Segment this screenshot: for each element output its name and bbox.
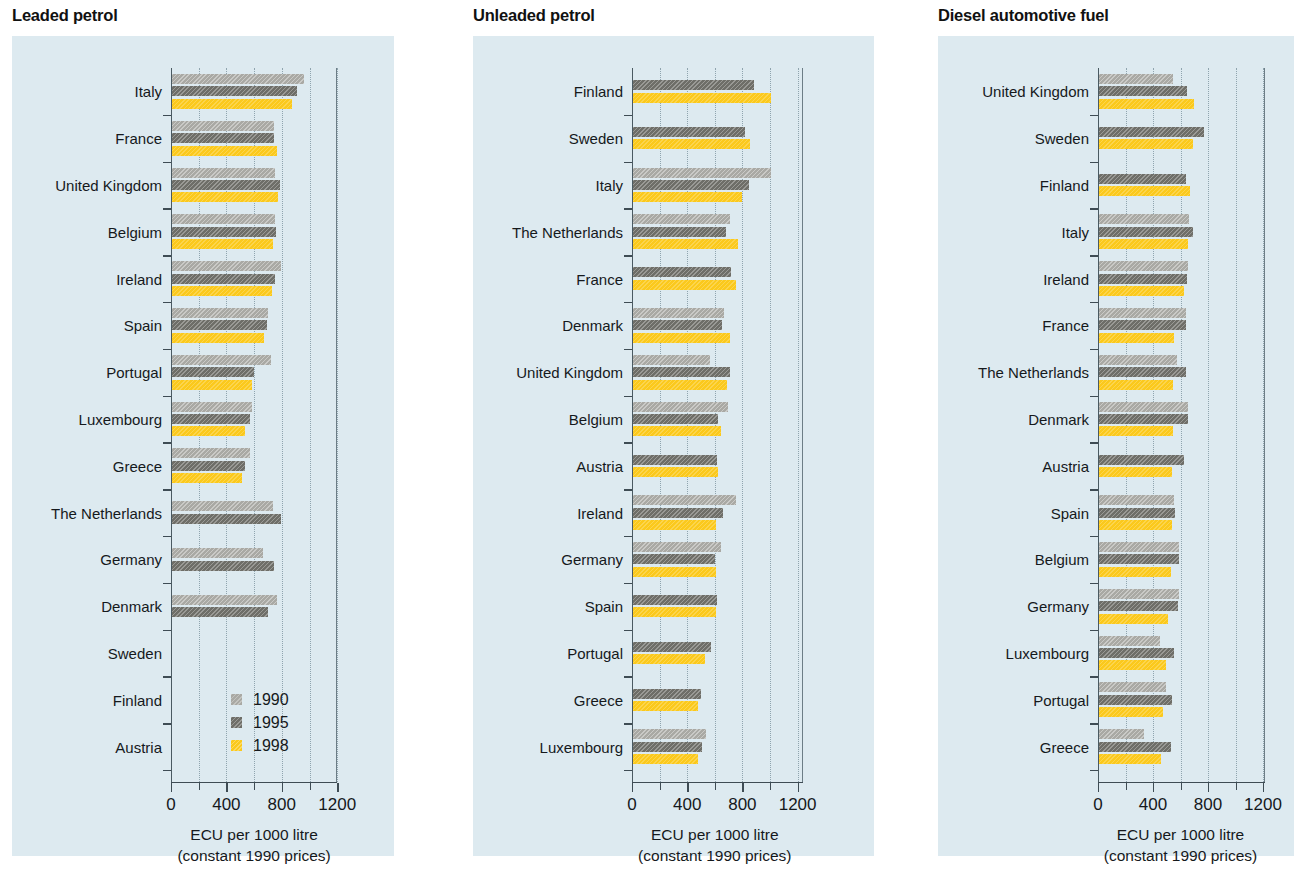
bar xyxy=(1099,467,1172,477)
bar xyxy=(172,473,242,483)
category-label: Denmark xyxy=(473,318,623,333)
category-axis-tick xyxy=(624,630,632,631)
bar xyxy=(633,333,730,343)
bar xyxy=(633,192,742,202)
bar xyxy=(633,320,722,330)
x-axis-tick xyxy=(282,783,283,792)
x-axis-tick xyxy=(632,783,633,792)
category-label: Germany xyxy=(12,552,162,567)
category-axis-tick xyxy=(624,676,632,677)
gridline xyxy=(1208,68,1210,782)
category-axis-tick xyxy=(163,770,171,771)
category-axis-tick xyxy=(1090,115,1098,116)
bar xyxy=(1099,695,1172,705)
bar xyxy=(633,380,727,390)
category-label: The Netherlands xyxy=(938,365,1089,380)
bar xyxy=(172,227,276,237)
category-axis-tick xyxy=(624,115,632,116)
bar xyxy=(172,180,280,190)
legend-label: 1998 xyxy=(253,738,289,754)
category-axis-tick xyxy=(624,302,632,303)
x-axis-tick xyxy=(1181,783,1182,790)
bar xyxy=(172,286,272,296)
bar xyxy=(633,239,738,249)
x-axis-tick xyxy=(254,783,255,790)
bar xyxy=(172,367,254,377)
bar xyxy=(172,448,250,458)
category-axis-tick xyxy=(163,162,171,163)
x-axis-tick xyxy=(687,783,688,792)
bar xyxy=(1099,174,1186,184)
bar xyxy=(172,86,297,96)
category-label: Denmark xyxy=(938,412,1089,427)
category-label: Austria xyxy=(938,459,1089,474)
category-axis-tick xyxy=(163,396,171,397)
x-axis-tick xyxy=(1153,783,1154,792)
bar xyxy=(1099,542,1179,552)
category-label: Sweden xyxy=(473,131,623,146)
x-axis-tick-label: 0 xyxy=(1068,795,1128,815)
x-axis-tick xyxy=(770,783,771,790)
bar xyxy=(633,280,736,290)
bar xyxy=(633,426,721,436)
category-label: Luxembourg xyxy=(12,412,162,427)
x-axis-tick xyxy=(1263,783,1264,792)
category-label: Finland xyxy=(938,178,1089,193)
category-label: Finland xyxy=(473,84,623,99)
bar xyxy=(1099,754,1161,764)
category-axis-tick xyxy=(1090,162,1098,163)
category-axis-tick xyxy=(163,583,171,584)
bar xyxy=(172,595,277,605)
bar xyxy=(172,380,252,390)
axis-caption-line1: ECU per 1000 litre xyxy=(104,825,404,846)
category-label: Greece xyxy=(473,693,623,708)
x-axis-tick xyxy=(1126,783,1127,790)
category-axis-tick xyxy=(1090,770,1098,771)
x-axis-tick xyxy=(337,783,338,792)
plot-area-3: 04008001200ECU per 1000 litre(constant 1… xyxy=(938,36,1294,856)
category-axis-tick xyxy=(624,723,632,724)
bar xyxy=(1099,308,1186,318)
x-axis-tick xyxy=(798,783,799,792)
bar xyxy=(633,467,718,477)
bar xyxy=(1099,682,1166,692)
bar xyxy=(1099,614,1168,624)
bar xyxy=(633,402,728,412)
x-axis-tick xyxy=(715,783,716,790)
category-label: Belgium xyxy=(473,412,623,427)
category-axis-tick xyxy=(1090,536,1098,537)
bar xyxy=(1099,333,1174,343)
category-label: The Netherlands xyxy=(473,225,623,240)
bar xyxy=(172,548,263,558)
bar xyxy=(1099,729,1144,739)
bar xyxy=(633,308,724,318)
category-axis-tick xyxy=(624,770,632,771)
bar xyxy=(172,414,250,424)
bar xyxy=(633,554,715,564)
bar xyxy=(1099,214,1189,224)
category-label: United Kingdom xyxy=(12,178,162,193)
category-axis-tick xyxy=(163,723,171,724)
legend-swatch-icon xyxy=(231,717,242,728)
bar xyxy=(633,495,736,505)
bar xyxy=(633,567,716,577)
bar xyxy=(1099,74,1173,84)
category-label: Austria xyxy=(473,459,623,474)
legend-item[interactable]: 1998 xyxy=(231,734,289,757)
category-axis-tick xyxy=(1090,442,1098,443)
bar xyxy=(172,261,281,271)
bar xyxy=(172,74,304,84)
category-axis-tick xyxy=(624,396,632,397)
category-axis-tick xyxy=(624,208,632,209)
category-axis-tick xyxy=(1090,396,1098,397)
category-label: The Netherlands xyxy=(12,506,162,521)
category-label: Germany xyxy=(938,599,1089,614)
category-axis-tick xyxy=(163,676,171,677)
x-axis-caption: ECU per 1000 litre(constant 1990 prices) xyxy=(104,825,404,867)
plot-right-border xyxy=(802,68,803,782)
category-axis-tick xyxy=(1090,208,1098,209)
legend-item[interactable]: 1995 xyxy=(231,711,289,734)
gridline xyxy=(282,68,284,782)
legend-item[interactable]: 1990 xyxy=(231,688,289,711)
bar xyxy=(633,414,718,424)
